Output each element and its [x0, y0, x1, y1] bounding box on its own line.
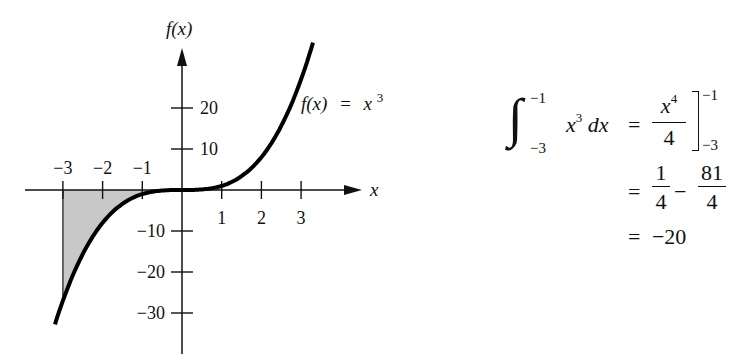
y-axis-arrow-icon: [177, 48, 187, 66]
y-tick-label: −20: [137, 262, 165, 282]
eval-upper-limit: −1: [702, 87, 718, 104]
integrand-base: x: [566, 112, 576, 137]
x-tick-label: 3: [297, 208, 306, 228]
y-tick-label: −30: [137, 303, 165, 323]
x-tick-label: −1: [133, 158, 152, 178]
fraction-numerator-base: x: [661, 93, 671, 118]
curve-label: f(x) = x 3: [301, 90, 383, 115]
fraction1-numerator: 1: [652, 160, 670, 187]
result-line: = −20: [628, 224, 686, 250]
y-tick-label: 10: [200, 139, 218, 159]
minus-sign: −: [674, 179, 686, 205]
differential: dx: [588, 112, 609, 137]
integral-sign-icon: ∫: [508, 88, 523, 148]
fraction2-numerator: 81: [698, 160, 726, 187]
result-value: −20: [652, 224, 686, 249]
y-tick-label: 20: [200, 98, 218, 118]
x-axis-arrow-icon: [344, 185, 362, 195]
shaded-area: [63, 190, 142, 301]
fraction1-denominator: 4: [652, 187, 670, 217]
fraction-denominator: 4: [652, 123, 686, 153]
integral-upper-limit: −1: [530, 90, 546, 107]
x-axis-label: x: [369, 179, 379, 200]
equals-sign-1: =: [628, 112, 640, 138]
integrand-exponent: 3: [576, 110, 583, 125]
y-tick-label: −10: [137, 221, 165, 241]
cubic-function-plot: −3−2−11232010−10−20−30 f(x) x f(x) = x 3: [0, 0, 460, 364]
evaluation-bracket: [692, 91, 699, 151]
integral-lower-limit: −3: [530, 140, 546, 157]
fraction-numerator-exponent: 4: [671, 91, 678, 106]
fraction2-denominator: 4: [698, 187, 726, 217]
x-tick-label: 2: [257, 208, 266, 228]
eval-lower-limit: −3: [702, 137, 718, 154]
cubic-curve: [55, 43, 313, 325]
y-axis-label: f(x): [166, 18, 192, 40]
equals-sign-3: =: [628, 224, 640, 249]
x-tick-label: 1: [217, 208, 226, 228]
x-tick-label: −2: [93, 158, 112, 178]
equals-sign-2: =: [628, 179, 640, 205]
x-tick-label: −3: [53, 158, 72, 178]
